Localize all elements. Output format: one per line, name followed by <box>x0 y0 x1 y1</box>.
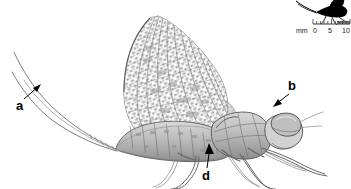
scale-bar: mm 0 5 10 <box>296 18 351 36</box>
label-a: a <box>16 99 23 112</box>
label-d: d <box>202 169 210 182</box>
scale-tick-0: 0 <box>313 27 317 34</box>
mayfly-figure: a b d mm 0 5 10 <box>0 0 351 189</box>
scale-unit-label: mm <box>296 27 308 34</box>
scale-tick-10: 10 <box>342 27 350 34</box>
label-b: b <box>288 79 296 92</box>
scale-tick-5: 5 <box>328 27 332 34</box>
